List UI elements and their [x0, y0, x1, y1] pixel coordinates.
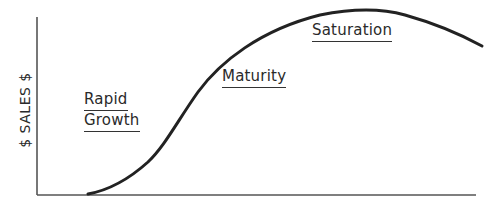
- y-axis-label: $ SALES $: [17, 72, 33, 147]
- sales-curve-diagram: $ SALES $ Rapid Growth Maturity Saturati…: [0, 0, 489, 208]
- stage-label-maturity: Maturity: [222, 67, 286, 88]
- stage-label-saturation-text: Saturation: [312, 21, 392, 42]
- stage-label-rapid: Rapid: [84, 90, 128, 111]
- diagram-svg: [0, 0, 489, 208]
- stage-label-maturity-text: Maturity: [222, 67, 286, 88]
- sales-curve: [88, 10, 482, 194]
- stage-label-rapid-growth: Rapid Growth: [84, 90, 140, 132]
- stage-label-growth: Growth: [84, 111, 140, 132]
- stage-label-saturation: Saturation: [312, 21, 392, 42]
